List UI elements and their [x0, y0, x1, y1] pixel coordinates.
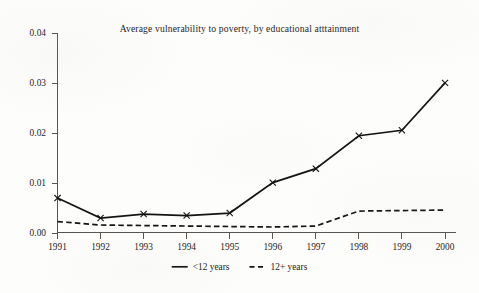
legend-label: <12 years — [193, 262, 230, 272]
x-tick-label: 1997 — [306, 242, 325, 252]
series-line-12-years — [58, 210, 446, 227]
chart-figure: Average vulnerability to poverty, by edu… — [0, 0, 479, 293]
y-tick-label: 0.03 — [30, 78, 47, 88]
x-tick-label: 1998 — [350, 242, 369, 252]
y-tick-label: 0.04 — [30, 28, 47, 38]
chart-legend: <12 years12+ years — [172, 262, 308, 272]
legend-label: 12+ years — [271, 262, 308, 272]
x-tick-label: 1995 — [220, 242, 239, 252]
series-line--12-years — [58, 83, 446, 218]
x-tick-label: 1991 — [48, 242, 67, 252]
y-tick-label: 0.01 — [30, 178, 47, 188]
y-tick-label: 0.00 — [30, 228, 47, 238]
data-series-layer — [54, 80, 448, 227]
x-tick-label: 1994 — [177, 242, 196, 252]
x-axis-ticks: 1991199219931994199519961997199819992000 — [48, 233, 455, 253]
chart-title: Average vulnerability to poverty, by edu… — [120, 23, 360, 34]
y-axis-ticks: 0.000.010.020.030.04 — [30, 28, 58, 238]
x-tick-label: 1996 — [263, 242, 282, 252]
data-point-marker — [442, 80, 448, 86]
x-tick-label: 2000 — [436, 242, 455, 252]
vulnerability-line-chart: Average vulnerability to poverty, by edu… — [0, 0, 479, 293]
x-tick-label: 1999 — [393, 242, 412, 252]
y-tick-label: 0.02 — [30, 128, 47, 138]
x-tick-label: 1993 — [134, 242, 153, 252]
x-tick-label: 1992 — [91, 242, 110, 252]
